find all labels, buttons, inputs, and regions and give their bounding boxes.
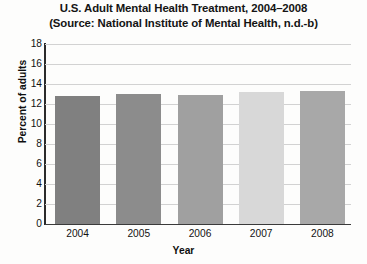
bar-2008[interactable]: [300, 91, 345, 224]
y-axis-tick-labels: 181614121086420: [16, 44, 42, 224]
x-tick-label-2007: 2007: [231, 228, 291, 239]
x-tick-label-2006: 2006: [170, 228, 230, 239]
x-tick-label-2005: 2005: [109, 228, 169, 239]
chart-title: U.S. Adult Mental Health Treatment, 2004…: [0, 1, 367, 31]
bar-2007[interactable]: [239, 92, 284, 224]
y-tick-label-16: 16: [20, 59, 42, 69]
chart-title-line-2: (Source: National Institute of Mental He…: [0, 16, 367, 31]
gridline-18: [45, 44, 351, 45]
y-tick-label-8: 8: [20, 139, 42, 149]
y-tick-label-14: 14: [20, 79, 42, 89]
x-tick-label-2008: 2008: [292, 228, 352, 239]
bar-2004[interactable]: [55, 96, 100, 224]
bar-2005[interactable]: [116, 94, 161, 224]
x-axis-title: Year: [0, 245, 367, 256]
bar-2006[interactable]: [178, 95, 223, 224]
gridline-16: [45, 64, 351, 65]
y-tick-label-10: 10: [20, 119, 42, 129]
chart-title-line-1: U.S. Adult Mental Health Treatment, 2004…: [0, 1, 367, 16]
gridline-14: [45, 84, 351, 85]
y-tick-label-12: 12: [20, 99, 42, 109]
y-tick-label-18: 18: [20, 39, 42, 49]
y-tick-label-6: 6: [20, 159, 42, 169]
y-tick-label-4: 4: [20, 179, 42, 189]
y-tick-label-2: 2: [20, 199, 42, 209]
y-tick-label-0: 0: [20, 219, 42, 229]
plot-area: [45, 44, 351, 224]
x-axis-baseline: [45, 224, 351, 225]
bar-chart: U.S. Adult Mental Health Treatment, 2004…: [0, 0, 367, 264]
x-tick-label-2004: 2004: [48, 228, 108, 239]
